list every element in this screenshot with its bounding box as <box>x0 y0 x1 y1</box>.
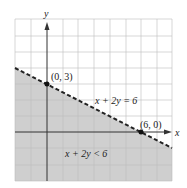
region-inequality-label: x + 2y < 6 <box>64 148 107 159</box>
line-equation-label: x + 2y = 6 <box>94 95 137 106</box>
point-0-3-label: (0, 3) <box>51 71 73 83</box>
x-axis-arrow-icon <box>164 130 172 135</box>
point-6-0 <box>139 130 144 135</box>
graph: y x (0, 3) (6, 0) x + 2y = 6 x + 2y < 6 <box>0 0 187 188</box>
x-axis-label: x <box>174 127 180 138</box>
point-6-0-label: (6, 0) <box>140 119 162 131</box>
y-axis-arrow-icon <box>45 22 50 30</box>
y-axis-label: y <box>43 8 49 19</box>
point-0-3 <box>45 82 50 87</box>
